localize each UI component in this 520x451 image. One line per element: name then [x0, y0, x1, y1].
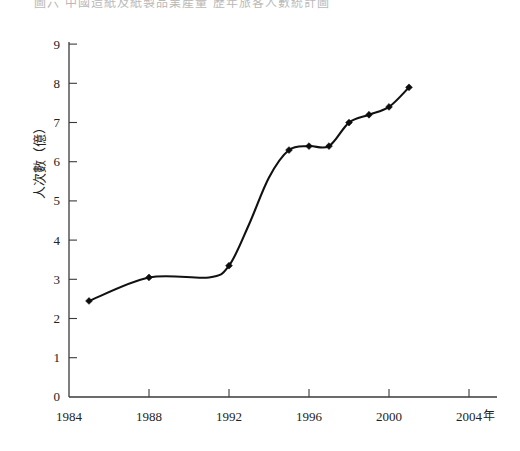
y-tick-label-9: 9	[54, 37, 61, 52]
line-chart-svg: 人次數（億） 9 8 7 6 5 4 3 2 1 0	[0, 0, 520, 451]
x-tick-label-2000: 2000	[376, 409, 402, 424]
x-tick-label-1996: 1996	[296, 409, 323, 424]
axes	[69, 42, 497, 397]
data-point-marker	[86, 298, 93, 305]
x-axis-ticks: 1984 1988 1992 1996 2000 2004 年	[56, 389, 495, 424]
data-point-marker	[146, 274, 153, 281]
y-axis-ticks: 9 8 7 6 5 4 3 2 1 0	[54, 37, 78, 405]
x-tick-label-1984: 1984	[56, 409, 83, 424]
y-tick-label-5: 5	[54, 193, 61, 208]
x-tick-label-1992: 1992	[216, 409, 242, 424]
data-series-line	[89, 87, 409, 301]
y-tick-label-8: 8	[54, 76, 61, 91]
y-tick-label-0: 0	[54, 389, 61, 404]
x-axis-unit-label: 年	[483, 409, 495, 423]
x-tick-label-1988: 1988	[136, 409, 162, 424]
chart-figure: 人次數（億） 9 8 7 6 5 4 3 2 1 0	[0, 0, 520, 451]
y-tick-label-2: 2	[54, 311, 61, 326]
y-tick-label-3: 3	[54, 272, 61, 287]
y-tick-label-1: 1	[54, 350, 61, 365]
data-point-marker	[366, 111, 373, 118]
y-axis-title: 人次數（億）	[32, 121, 47, 199]
data-point-marker	[306, 143, 313, 150]
y-tick-label-7: 7	[54, 115, 61, 130]
x-tick-label-2004: 2004	[456, 409, 483, 424]
y-tick-label-4: 4	[54, 233, 61, 248]
y-tick-label-6: 6	[54, 154, 61, 169]
